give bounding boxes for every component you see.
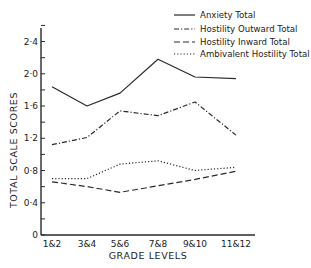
y-tick-label: 0·4 [24, 198, 39, 208]
series-line-3 [52, 161, 236, 179]
x-tick-label: 1&2 [43, 239, 61, 249]
x-tick-label: 5&6 [111, 239, 130, 249]
legend-label: Hostility Inward Total [200, 37, 290, 47]
y-axis-ticks: 00·40·81·21·62·02·4 [24, 25, 45, 240]
y-tick-label: 0 [32, 230, 38, 240]
x-tick-label: 7&8 [149, 239, 168, 249]
series-line-1 [52, 102, 236, 145]
legend: Anxiety TotalHostility Outward TotalHost… [174, 10, 310, 59]
legend-label: Anxiety Total [200, 10, 255, 20]
line-chart: 00·40·81·21·62·02·4 1&23&45&67&89&1011&1… [0, 0, 311, 268]
x-tick-label: 3&4 [78, 239, 97, 249]
series-line-0 [52, 59, 236, 106]
y-tick-label: 2·0 [24, 69, 39, 79]
y-tick-label: 2·4 [24, 37, 39, 47]
series-line-2 [52, 171, 236, 192]
legend-label: Ambivalent Hostility Total [200, 49, 310, 59]
legend-label: Hostility Outward Total [200, 24, 297, 34]
x-tick-label: 9&10 [183, 239, 207, 249]
x-axis-title: GRADE LEVELS [109, 250, 188, 261]
axes [41, 28, 255, 235]
y-tick-label: 0·8 [24, 166, 39, 176]
y-tick-label: 1·6 [24, 101, 39, 111]
x-tick-label: 11&12 [221, 239, 251, 249]
y-tick-label: 1·2 [24, 133, 38, 143]
y-axis-title: TOTAL SCALE SCORES [8, 92, 19, 209]
series-lines [52, 59, 236, 192]
x-axis-ticks: 1&23&45&67&89&1011&12 [43, 239, 251, 249]
